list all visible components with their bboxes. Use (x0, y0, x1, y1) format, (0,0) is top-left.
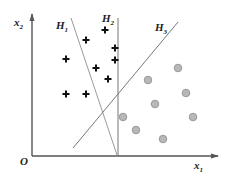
circle-point (159, 135, 167, 143)
svm-hyperplanes-diagram: x2 x1 O H1H2H3 (0, 0, 232, 183)
y-axis-label: x2 (13, 16, 24, 31)
plus-point (83, 91, 90, 98)
circle-point (151, 100, 159, 108)
hyperplane-label-h3: H3 (154, 21, 168, 36)
circle-point (132, 126, 140, 134)
x-axis-label: x1 (193, 159, 203, 174)
plus-point (112, 45, 119, 52)
plus-point (63, 91, 70, 98)
hyperplane-h1 (71, 18, 117, 155)
circle-class-points (119, 64, 197, 143)
plus-class-points (63, 27, 119, 98)
plus-point (63, 56, 70, 63)
circle-point (189, 113, 197, 121)
circle-point (182, 89, 190, 97)
circle-point (119, 113, 127, 121)
hyperplane-labels: H1H2H3 (55, 12, 168, 36)
plus-point (93, 65, 100, 72)
plus-point (83, 37, 90, 44)
origin-label: O (20, 155, 28, 167)
plus-point (112, 57, 119, 64)
circle-point (174, 64, 182, 72)
hyperplane-label-h2: H2 (101, 12, 115, 27)
hyperplane-label-h1: H1 (55, 19, 68, 34)
circle-point (144, 76, 152, 84)
plot-area: x2 x1 O H1H2H3 (0, 0, 232, 183)
plus-point (102, 27, 109, 34)
plus-point (105, 76, 112, 83)
